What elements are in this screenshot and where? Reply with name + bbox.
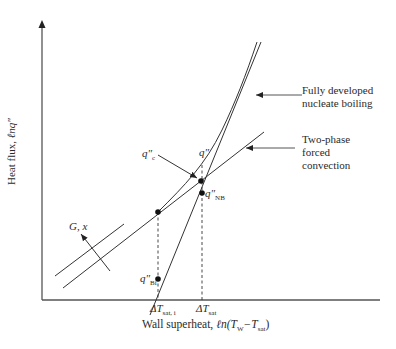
forced-convection-label-line3: convection [302, 159, 350, 172]
y-axis-label-math: ℓnq″ [5, 118, 17, 138]
x-axis-label-close: ) [265, 318, 269, 330]
nucleate-boiling-label-line1: Fully developed [302, 84, 373, 97]
qc-point [198, 178, 204, 184]
nucleate-boiling-label: Fully developed nucleate boiling [302, 84, 373, 110]
qbi-symbol: q″ [140, 272, 150, 284]
x-axis-label: Wall superheat, ℓn(TW−Tsat) [142, 318, 269, 336]
qnb-sub: NB [215, 194, 225, 202]
forced-convection-label: Two-phase forced convection [302, 133, 350, 172]
forced-convection-line [63, 132, 264, 288]
shifted-convection-line [55, 224, 124, 276]
qbi-label: q″Bi [140, 272, 157, 290]
gx-arrow [81, 234, 110, 271]
qnb-label: q″NB [205, 187, 225, 205]
qc-sub: c [152, 154, 155, 162]
gx-label: G, x [69, 220, 87, 233]
qc-label: q″c [142, 147, 155, 165]
qbi-sub: Bi [150, 279, 157, 287]
y-axis-arrow-icon [39, 20, 46, 28]
qc-symbol: q″ [142, 147, 152, 159]
onset-point [155, 209, 161, 215]
dt-sat-symbol: ΔT [196, 302, 209, 314]
nucleate-boiling-line [150, 42, 261, 315]
flow-boiling-diagram [0, 0, 396, 349]
qc-leader-arrow [158, 155, 197, 178]
forced-convection-label-line2: forced [302, 146, 350, 159]
qnb-point [199, 190, 205, 196]
dt-sat-sub: sat [209, 309, 217, 317]
dt-sat-i-symbol: ΔT [150, 302, 163, 314]
forced-convection-label-line1: Two-phase [302, 133, 350, 146]
dt-sat-label: ΔTsat [196, 302, 216, 320]
qnb-symbol: q″ [205, 187, 215, 199]
dt-sat-i-sub: sat, i [163, 309, 176, 317]
nucleate-boiling-label-line2: nucleate boiling [302, 97, 373, 110]
x-axis-label-math: ℓn(T [216, 318, 237, 330]
x-axis-label-sub-w: W [237, 325, 244, 333]
dt-sat-i-label: ΔTsat, i [150, 302, 176, 320]
y-axis-label-text: Heat flux, [5, 138, 17, 185]
q-label: q″ [199, 146, 209, 159]
x-axis-label-mid: −T [244, 318, 258, 330]
q-symbol: q″ [199, 146, 209, 158]
y-axis-label: Heat flux, ℓnq″ [5, 118, 17, 185]
